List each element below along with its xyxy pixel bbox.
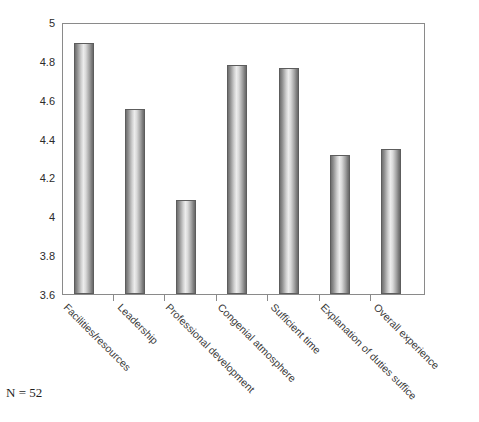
x-tick-mark: [216, 295, 217, 301]
plot-area: [62, 23, 425, 295]
bar: [381, 149, 401, 294]
x-tick-mark: [370, 295, 371, 301]
bar-chart-figure: 5 4.8 4.6 4.4 4.2 4 3.8 3.6 Facilities/r…: [0, 0, 479, 422]
y-tick-label: 4.4: [40, 134, 55, 146]
y-tick-label: 5: [49, 17, 55, 29]
x-tick-label: Leadership: [116, 301, 161, 346]
bar: [125, 109, 145, 294]
sample-size-annotation: N = 52: [6, 385, 42, 401]
y-tick-label: 4.2: [40, 172, 55, 184]
y-axis: 5 4.8 4.6 4.4 4.2 4 3.8 3.6: [0, 23, 55, 295]
x-tick-mark: [113, 295, 114, 301]
y-tick-label: 3.8: [40, 250, 55, 262]
x-tick-mark: [164, 295, 165, 301]
y-tick-label: 4.6: [40, 95, 55, 107]
y-tick-label: 4.8: [40, 56, 55, 68]
bar: [330, 155, 350, 294]
x-tick-mark: [267, 295, 268, 301]
bar: [176, 200, 196, 295]
x-tick-mark: [319, 295, 320, 301]
bar: [227, 65, 247, 295]
x-tick-label: Sufficient time: [269, 301, 324, 356]
y-tick-label: 4: [49, 211, 55, 223]
x-tick-label: Professional development: [164, 301, 258, 395]
bar: [74, 43, 94, 294]
bar: [279, 68, 299, 294]
x-tick-label: Explanation of duties suffice: [319, 301, 420, 402]
y-tick-label: 3.6: [40, 289, 55, 301]
